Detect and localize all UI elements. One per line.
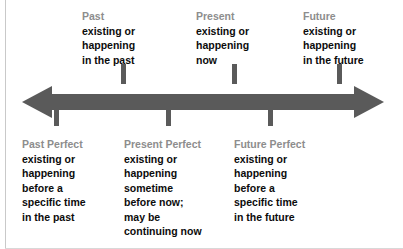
verb-tense-timeline-diagram: Past existing or happening in the past P… — [0, 0, 403, 249]
tense-description-past-perfect: existing or happening before a specific … — [22, 152, 122, 225]
timeline-tick-past — [121, 64, 126, 84]
tense-block-present-perfect: Present Perfect existing or happening so… — [124, 137, 232, 239]
timeline-tick-present-perfect — [166, 108, 171, 126]
timeline-tick-future-perfect — [268, 108, 273, 126]
tense-heading-future-perfect: Future Perfect — [234, 137, 339, 152]
tense-heading-past-perfect: Past Perfect — [22, 137, 122, 152]
tense-block-past-perfect: Past Perfect existing or happening befor… — [22, 137, 122, 224]
timeline-tick-future — [337, 64, 342, 84]
timeline-axis-arrow — [22, 84, 384, 120]
tense-heading-present: Present — [196, 9, 286, 24]
page-frame-left-rule — [5, 0, 6, 249]
tense-description-past: existing or happening in the past — [82, 24, 177, 68]
tense-description-present: existing or happening now — [196, 24, 286, 68]
timeline-tick-past-perfect — [54, 108, 59, 126]
tense-heading-present-perfect: Present Perfect — [124, 137, 232, 152]
tense-block-future-perfect: Future Perfect existing or happening bef… — [234, 137, 339, 224]
tense-heading-past: Past — [82, 9, 177, 24]
tense-block-future: Future existing or happening in the futu… — [303, 9, 403, 67]
tense-block-present: Present existing or happening now — [196, 9, 286, 67]
tense-heading-future: Future — [303, 9, 403, 24]
tense-description-present-perfect: existing or happening sometime before no… — [124, 152, 232, 239]
tense-block-past: Past existing or happening in the past — [82, 9, 177, 67]
tense-description-future-perfect: existing or happening before a specific … — [234, 152, 339, 225]
tense-description-future: existing or happening in the future — [303, 24, 403, 68]
timeline-tick-present — [232, 64, 237, 84]
